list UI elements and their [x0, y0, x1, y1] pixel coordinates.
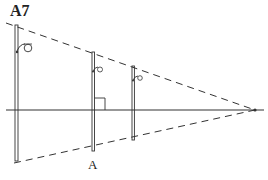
point-label-a: A	[88, 157, 97, 173]
lamp-icon	[133, 76, 138, 80]
top-converging-line	[6, 23, 255, 110]
right-angle-marker	[95, 98, 106, 110]
lamp-post-middle	[92, 52, 103, 151]
lamp-post-near	[15, 25, 32, 161]
perspective-diagram	[0, 0, 268, 180]
lamp-post-far	[132, 66, 142, 140]
vanishing-point	[253, 108, 256, 111]
